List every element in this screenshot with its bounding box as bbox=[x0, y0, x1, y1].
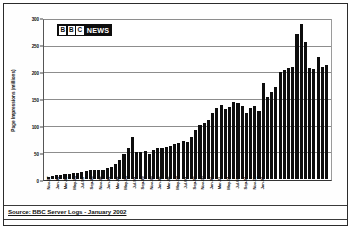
bar bbox=[186, 142, 189, 179]
plot-wrapper bbox=[43, 19, 332, 181]
y-tick-label: 200 bbox=[32, 71, 39, 76]
bar bbox=[207, 120, 210, 179]
y-tick-label: 250 bbox=[32, 44, 39, 49]
bar bbox=[194, 130, 197, 179]
bar bbox=[169, 146, 172, 179]
bar bbox=[304, 42, 307, 179]
bar bbox=[274, 87, 277, 179]
bar bbox=[249, 108, 252, 179]
bar bbox=[308, 68, 311, 179]
y-tick-label: 0 bbox=[37, 179, 39, 184]
bar bbox=[312, 69, 315, 179]
bar bbox=[325, 65, 328, 179]
bar bbox=[211, 113, 214, 179]
bar bbox=[122, 154, 125, 179]
bar bbox=[131, 137, 134, 179]
y-tick-label: 300 bbox=[32, 17, 39, 22]
bar bbox=[156, 148, 159, 179]
y-axis-ticks: 050100150200250300 bbox=[0, 19, 43, 181]
bar bbox=[51, 176, 54, 179]
bar bbox=[182, 141, 185, 179]
y-tick-label: 100 bbox=[32, 125, 39, 130]
bar bbox=[198, 125, 201, 179]
bar bbox=[253, 106, 256, 179]
bar bbox=[165, 147, 168, 179]
bar bbox=[148, 154, 151, 179]
bar bbox=[177, 143, 180, 179]
bar bbox=[287, 68, 290, 179]
x-axis-ticks: Nov-97Jan-98Mar-98May-98Jul-98Sep-98Nov-… bbox=[43, 181, 332, 205]
source-caption: Source: BBC Server Logs - January 2002 bbox=[8, 208, 126, 215]
bar bbox=[160, 148, 163, 179]
source-divider-top bbox=[4, 205, 347, 206]
y-tick-label: 50 bbox=[34, 152, 39, 157]
bar-series bbox=[45, 21, 330, 179]
bar bbox=[127, 148, 130, 179]
bar bbox=[245, 113, 248, 179]
bar bbox=[228, 107, 231, 179]
bar bbox=[139, 152, 142, 179]
bar bbox=[262, 83, 265, 179]
bar bbox=[295, 34, 298, 179]
bbc-logo-letter-b1: B bbox=[59, 26, 66, 35]
bar bbox=[203, 123, 206, 179]
bar bbox=[321, 67, 324, 179]
bar bbox=[144, 151, 147, 179]
bbc-logo-letter-c: C bbox=[76, 26, 83, 35]
bbc-logo-news-text: NEWS bbox=[87, 26, 110, 35]
plot-area bbox=[43, 19, 332, 181]
bar bbox=[241, 106, 244, 179]
bar bbox=[317, 57, 320, 179]
bar bbox=[152, 150, 155, 179]
bar bbox=[236, 103, 239, 179]
bar bbox=[270, 92, 273, 179]
bar bbox=[283, 70, 286, 179]
gridline bbox=[44, 19, 331, 20]
bar bbox=[135, 152, 138, 179]
bar bbox=[215, 108, 218, 179]
y-tick-label: 150 bbox=[32, 98, 39, 103]
bar bbox=[173, 144, 176, 179]
bar bbox=[224, 109, 227, 179]
bar bbox=[220, 105, 223, 179]
bar bbox=[190, 137, 193, 179]
bar bbox=[232, 102, 235, 179]
bar bbox=[68, 174, 71, 179]
bbc-news-logo: B B C NEWS bbox=[57, 24, 112, 36]
bar bbox=[266, 97, 269, 179]
x-tick-slot bbox=[327, 181, 331, 205]
bar bbox=[291, 67, 294, 179]
bar bbox=[300, 24, 303, 179]
bbc-logo-letter-b2: B bbox=[68, 26, 75, 35]
source-divider-bottom bbox=[4, 219, 347, 220]
bar bbox=[257, 111, 260, 179]
bar bbox=[279, 72, 282, 179]
chart-figure: Page Impressions (millions) 050100150200… bbox=[0, 0, 351, 229]
